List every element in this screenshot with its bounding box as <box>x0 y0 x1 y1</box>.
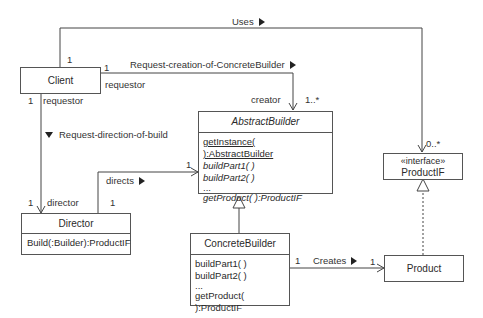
direction-arrow-down-icon <box>45 132 53 138</box>
class-concrete-builder[interactable]: ConcreteBuilder buildPart1( ) buildPart2… <box>190 233 290 306</box>
class-product[interactable]: Product <box>384 255 464 282</box>
class-abstract-builder[interactable]: AbstractBuilder getInstance( ):AbstractB… <box>198 111 333 194</box>
association-label-request-direction: Request-direction-of-build <box>45 129 168 140</box>
stereotype: «interface» <box>384 156 462 167</box>
direction-arrow-icon <box>290 61 296 69</box>
label-text: Request-direction-of-build <box>59 129 168 140</box>
operation: buildPart2( ) <box>195 270 285 282</box>
direction-arrow-icon <box>351 257 357 265</box>
operation: ... <box>195 282 285 290</box>
multiplicity: 1 <box>67 54 72 65</box>
multiplicity: 1 <box>295 255 300 266</box>
label-text: Uses <box>232 16 254 27</box>
operation: getProduct( ):ProductIF <box>203 192 328 204</box>
class-director[interactable]: Director Build(:Builder):ProductIF <box>21 213 131 255</box>
multiplicity: 1 <box>110 197 115 208</box>
operation: ... <box>203 184 328 192</box>
label-text: Request-creation-of-ConcreteBuilder <box>130 59 285 70</box>
class-name: Client <box>21 68 100 93</box>
class-name: ProductIF <box>384 167 462 179</box>
operations-list: buildPart1( ) buildPart2( ) ... getProdu… <box>191 255 289 317</box>
operation: Build(:Builder):ProductIF <box>27 237 125 249</box>
operation: buildPart1( ) <box>195 258 285 270</box>
association-label-uses: Uses <box>232 16 265 27</box>
operation: getInstance( ):AbstractBuilder <box>203 136 328 160</box>
multiplicity: 1 <box>28 95 33 106</box>
operation: buildPart1( ) <box>203 160 328 172</box>
multiplicity: 1 <box>370 256 375 267</box>
operations-list: getInstance( ):AbstractBuilder buildPart… <box>199 133 332 207</box>
direction-arrow-icon <box>139 177 145 185</box>
association-label-request-creation: Request-creation-of-ConcreteBuilder <box>130 59 296 70</box>
multiplicity: 1 <box>104 62 109 73</box>
association-label-directs: directs <box>106 175 145 186</box>
role-name: requestor <box>43 95 83 106</box>
class-name: Director <box>22 214 130 233</box>
class-name: ConcreteBuilder <box>191 234 289 254</box>
operations-list: Build(:Builder):ProductIF <box>22 234 130 252</box>
multiplicity: 1 <box>28 197 33 208</box>
class-name: AbstractBuilder <box>199 112 332 132</box>
association-label-creates: Creates <box>313 255 357 266</box>
interface-productif[interactable]: «interface» ProductIF <box>383 153 463 180</box>
label-text: directs <box>106 175 134 186</box>
operation: getProduct( ):ProductIF <box>195 290 285 314</box>
class-name: Product <box>385 256 463 281</box>
operation: buildPart2( ) <box>203 172 328 184</box>
class-client[interactable]: Client <box>20 67 101 94</box>
direction-arrow-icon <box>259 18 265 26</box>
role-name: creator <box>251 94 281 105</box>
multiplicity: 1 <box>186 159 191 170</box>
label-text: Creates <box>313 255 346 266</box>
multiplicity: 1..* <box>305 94 319 105</box>
role-name: director <box>47 197 79 208</box>
role-name: requestor <box>105 79 145 90</box>
multiplicity: 0..* <box>426 138 440 149</box>
